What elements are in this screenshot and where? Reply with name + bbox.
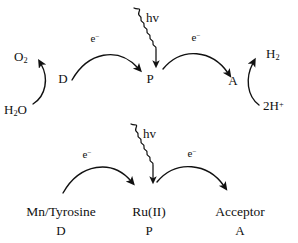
label-electron-right-top: e− xyxy=(192,32,201,43)
label-acceptor-compound: Acceptor xyxy=(215,205,264,219)
label-electron-left-bottom: e− xyxy=(83,149,92,160)
label-electron-left-top: e− xyxy=(91,33,100,44)
label-photosensitizer-top: P xyxy=(146,72,153,85)
photosynthesis-scheme-figure: O2 H2O D P A H2 2H+ e− e− hv e− e− hv Mn… xyxy=(0,0,298,243)
label-electron-right-bottom: e− xyxy=(188,148,197,159)
label-acceptor-top: A xyxy=(228,74,237,87)
electron-transfer-arrow-ru-to-acceptor xyxy=(157,167,224,186)
label-photosensitizer-compound: Ru(II) xyxy=(132,205,166,219)
label-acceptor-role: A xyxy=(235,224,244,237)
label-donor-role: D xyxy=(56,224,65,237)
label-donor-compound: Mn/Tyrosine xyxy=(26,205,96,219)
electron-transfer-arrow-mn-to-ru xyxy=(63,167,131,193)
label-photon-top: hv xyxy=(146,11,159,24)
label-hydrogen: H2 xyxy=(266,47,280,62)
water-oxidation-arrow xyxy=(33,64,45,104)
electron-transfer-arrow-p-to-acceptor xyxy=(163,54,228,73)
label-protons: 2H+ xyxy=(263,99,284,112)
electron-transfer-arrow-donor-to-p xyxy=(72,55,138,80)
label-photon-bottom: hv xyxy=(143,127,156,140)
label-photosensitizer-role: P xyxy=(145,224,152,237)
proton-reduction-arrow xyxy=(248,63,259,105)
label-water: H2O xyxy=(4,103,27,118)
label-oxygen: O2 xyxy=(14,50,28,65)
label-donor-top: D xyxy=(58,72,67,85)
